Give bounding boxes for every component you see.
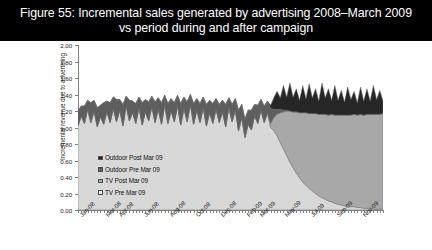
x-tick-mark: [97, 211, 98, 213]
x-tick-mark: [104, 211, 105, 213]
x-tick-mark: [158, 211, 159, 213]
x-tick-mark: [277, 211, 278, 213]
y-tick-label: 1.60: [46, 75, 72, 82]
x-tick-mark: [174, 211, 175, 213]
x-tick-mark: [367, 211, 368, 213]
x-tick-mark: [261, 211, 262, 213]
x-tick-mark: [312, 211, 313, 213]
y-tick-label: 0.00: [46, 207, 72, 214]
x-tick-mark: [319, 211, 320, 213]
x-tick-mark: [370, 211, 371, 213]
x-tick-mark: [242, 211, 243, 213]
x-tick-mark: [235, 211, 236, 213]
x-tick-mark: [377, 211, 378, 213]
x-tick-mark: [152, 211, 153, 213]
x-tick-mark: [335, 211, 336, 213]
x-tick-mark: [325, 211, 326, 213]
x-tick-mark: [344, 211, 345, 213]
x-tick-mark: [222, 211, 223, 213]
x-tick-mark: [303, 211, 304, 213]
x-tick-mark: [306, 211, 307, 213]
x-tick-mark: [258, 211, 259, 213]
x-tick-mark: [255, 211, 256, 213]
x-tick-mark: [123, 211, 124, 213]
x-tick-mark: [133, 211, 134, 213]
x-tick-mark: [248, 211, 249, 213]
legend-swatch-icon: [98, 167, 103, 172]
x-tick-mark: [203, 211, 204, 213]
x-tick-mark: [181, 211, 182, 213]
x-tick-mark: [251, 211, 252, 213]
x-tick-mark: [226, 211, 227, 213]
legend-swatch-icon: [98, 179, 103, 184]
x-tick-mark: [380, 211, 381, 213]
x-tick-mark: [364, 211, 365, 213]
x-tick-mark: [309, 211, 310, 213]
legend-item[interactable]: Outdoor Post Mar 09: [98, 152, 162, 164]
legend-item[interactable]: TV Post Mar 09: [98, 175, 162, 187]
x-tick-mark: [373, 211, 374, 213]
x-tick-mark: [168, 211, 169, 213]
chart-figure-area: Incremental revenue due to advertising 0…: [0, 41, 432, 250]
x-tick-mark: [280, 211, 281, 213]
x-tick-mark: [81, 211, 82, 213]
legend-label: Outdoor Pre Mar 09: [105, 166, 160, 173]
x-tick-mark: [354, 211, 355, 213]
x-tick-mark: [165, 211, 166, 213]
x-tick-mark: [283, 211, 284, 213]
x-tick-mark: [300, 211, 301, 213]
x-tick-mark: [200, 211, 201, 213]
x-tick-mark: [184, 211, 185, 213]
x-tick-mark: [190, 211, 191, 213]
x-tick-mark: [351, 211, 352, 213]
y-tick-label: 0.20: [46, 190, 72, 197]
x-tick-mark: [107, 211, 108, 213]
x-tick-mark: [142, 211, 143, 213]
x-tick-mark: [139, 211, 140, 213]
x-tick-mark: [332, 211, 333, 213]
legend-label: Outdoor Post Mar 09: [105, 154, 162, 161]
y-tick-label: 0.40: [46, 174, 72, 181]
x-tick-mark: [161, 211, 162, 213]
x-tick-mark: [245, 211, 246, 213]
x-tick-mark: [383, 211, 384, 213]
x-tick-mark: [322, 211, 323, 213]
x-tick-mark: [91, 211, 92, 213]
x-tick-mark: [113, 211, 114, 213]
x-tick-mark: [296, 211, 297, 213]
legend-item[interactable]: TV Pre Mar 09: [98, 187, 162, 199]
x-tick-mark: [78, 211, 79, 213]
x-tick-mark: [232, 211, 233, 213]
legend-item[interactable]: Outdoor Pre Mar 09: [98, 164, 162, 176]
x-tick-mark: [219, 211, 220, 213]
x-tick-mark: [126, 211, 127, 213]
x-tick-mark: [136, 211, 137, 213]
x-tick-mark: [348, 211, 349, 213]
x-tick-mark: [197, 211, 198, 213]
x-tick-mark: [290, 211, 291, 213]
y-tick-label: 2.00: [46, 42, 72, 49]
x-tick-mark: [328, 211, 329, 213]
x-tick-mark: [213, 211, 214, 213]
legend-swatch-icon: [98, 156, 103, 161]
x-tick-mark: [129, 211, 130, 213]
x-tick-mark: [264, 211, 265, 213]
x-tick-mark: [287, 211, 288, 213]
x-tick-mark: [117, 211, 118, 213]
x-tick-mark: [94, 211, 95, 213]
x-tick-mark: [274, 211, 275, 213]
legend-label: TV Post Mar 09: [105, 177, 148, 184]
x-tick-mark: [84, 211, 85, 213]
x-tick-mark: [194, 211, 195, 213]
x-tick-mark: [100, 211, 101, 213]
x-tick-mark: [120, 211, 121, 213]
y-tick-label: 1.20: [46, 108, 72, 115]
y-tick-label: 0.60: [46, 157, 72, 164]
x-tick-mark: [145, 211, 146, 213]
x-tick-mark: [110, 211, 111, 213]
y-tick-label: 1.80: [46, 58, 72, 65]
y-tick-label: 0.80: [46, 141, 72, 148]
x-tick-mark: [271, 211, 272, 213]
x-tick-mark: [187, 211, 188, 213]
x-tick-mark: [216, 211, 217, 213]
